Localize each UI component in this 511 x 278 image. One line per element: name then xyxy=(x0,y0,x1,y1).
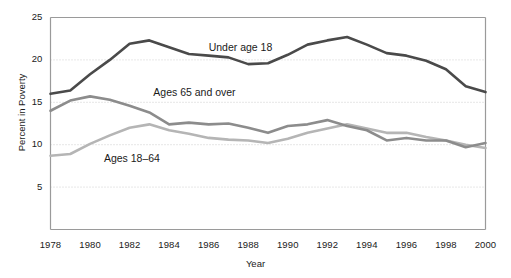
x-axis-title: Year xyxy=(0,258,511,269)
x-tick-label: 1984 xyxy=(149,239,189,250)
x-tick-label: 1992 xyxy=(307,239,347,250)
y-tick-label: 5 xyxy=(11,181,43,192)
x-tick-label: 1980 xyxy=(70,239,110,250)
series-annotation-label: Under age 18 xyxy=(209,41,273,53)
x-tick-label: 1998 xyxy=(426,239,466,250)
x-tick-label: 1988 xyxy=(228,239,268,250)
series-line-ages-65-and-over xyxy=(51,96,486,147)
y-tick-label: 20 xyxy=(11,53,43,64)
x-tick-label: 1990 xyxy=(268,239,308,250)
x-tick-label: 2000 xyxy=(466,239,506,250)
series-lines xyxy=(51,37,486,156)
x-tick-label: 1996 xyxy=(386,239,426,250)
x-tick-label: 1982 xyxy=(110,239,150,250)
y-tick-label: 15 xyxy=(11,96,43,107)
series-annotation-label: Ages 65 and over xyxy=(153,86,235,98)
x-tick-label: 1986 xyxy=(189,239,229,250)
poverty-rate-line-chart: Percent in Poverty Year 510152025 197819… xyxy=(0,0,511,278)
y-tick-label: 25 xyxy=(11,11,43,22)
y-tick-label: 10 xyxy=(11,138,43,149)
x-tick-label: 1978 xyxy=(31,239,71,250)
series-annotation-label: Ages 18–64 xyxy=(104,152,160,164)
x-tick-label: 1994 xyxy=(347,239,387,250)
